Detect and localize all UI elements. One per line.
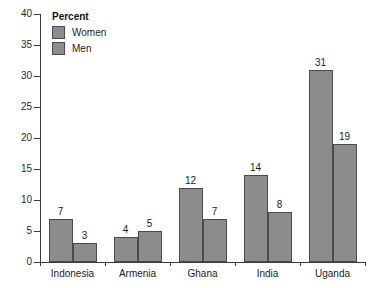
y-axis-tick bbox=[34, 231, 40, 232]
y-axis-tick bbox=[34, 76, 40, 77]
legend: Percent Women Men bbox=[52, 11, 106, 58]
legend-label-men: Men bbox=[72, 43, 91, 54]
legend-item-men: Men bbox=[52, 42, 106, 55]
bar-india-men bbox=[268, 212, 292, 262]
bar-armenia-women bbox=[114, 237, 138, 262]
bar-ghana-women bbox=[179, 188, 203, 262]
x-axis-label-armenia: Armenia bbox=[105, 268, 170, 279]
bar-indonesia-men bbox=[73, 243, 97, 262]
x-axis-tick bbox=[105, 262, 106, 266]
y-axis-tick-label: 5 bbox=[8, 226, 32, 236]
bar-armenia-men bbox=[138, 231, 162, 262]
y-axis-tick bbox=[34, 14, 40, 15]
bar-india-women bbox=[244, 175, 268, 262]
bar-uganda-women bbox=[309, 70, 333, 262]
x-axis-tick bbox=[235, 262, 236, 266]
legend-label-women: Women bbox=[72, 27, 106, 38]
bar-value-label: 19 bbox=[325, 132, 365, 142]
bar-value-label: 7 bbox=[195, 207, 235, 217]
bar-chart: 0510152025303540 73451271483119 Indonesi… bbox=[0, 0, 371, 288]
y-axis-tick-label: 30 bbox=[8, 71, 32, 81]
legend-swatch-icon-women bbox=[52, 26, 65, 39]
x-axis-tick bbox=[300, 262, 301, 266]
y-axis-tick-label: 20 bbox=[8, 133, 32, 143]
y-axis-tick-label: 15 bbox=[8, 164, 32, 174]
y-axis-line bbox=[40, 14, 41, 262]
bar-value-label: 5 bbox=[130, 219, 170, 229]
x-axis-tick bbox=[365, 262, 366, 266]
y-axis-tick-label: 35 bbox=[8, 40, 32, 50]
x-axis-line bbox=[40, 262, 365, 263]
bar-value-label: 3 bbox=[65, 231, 105, 241]
x-axis-tick bbox=[40, 262, 41, 266]
bar-value-label: 8 bbox=[260, 200, 300, 210]
bar-value-label: 7 bbox=[41, 207, 81, 217]
bar-uganda-men bbox=[333, 144, 357, 262]
y-axis-tick-label: 25 bbox=[8, 102, 32, 112]
bar-value-label: 14 bbox=[236, 163, 276, 173]
x-axis-tick bbox=[170, 262, 171, 266]
x-axis-label-ghana: Ghana bbox=[170, 268, 235, 279]
x-axis-label-uganda: Uganda bbox=[300, 268, 365, 279]
y-axis-tick bbox=[34, 138, 40, 139]
y-axis-tick bbox=[34, 45, 40, 46]
bar-value-label: 12 bbox=[171, 176, 211, 186]
x-axis-label-india: India bbox=[235, 268, 300, 279]
x-axis-label-indonesia: Indonesia bbox=[40, 268, 105, 279]
legend-item-women: Women bbox=[52, 26, 106, 39]
legend-title: Percent bbox=[52, 11, 106, 22]
y-axis-tick-label: 10 bbox=[8, 195, 32, 205]
y-axis-tick-label: 40 bbox=[8, 9, 32, 19]
y-axis-tick-label: 0 bbox=[8, 257, 32, 267]
y-axis-tick bbox=[34, 107, 40, 108]
bar-value-label: 31 bbox=[301, 58, 341, 68]
bar-ghana-men bbox=[203, 219, 227, 262]
legend-swatch-icon-men bbox=[52, 42, 65, 55]
y-axis-tick bbox=[34, 169, 40, 170]
y-axis-tick bbox=[34, 200, 40, 201]
